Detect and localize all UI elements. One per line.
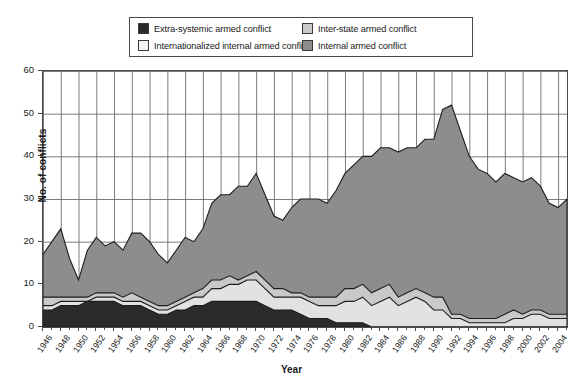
legend-label: Inter-state armed conflict bbox=[318, 24, 417, 34]
y-axis-tick-label: 10 bbox=[8, 277, 34, 288]
x-axis-tick-label: 1998 bbox=[493, 333, 516, 360]
chart-legend: Extra-systemic armed conflict Inter-stat… bbox=[129, 17, 473, 57]
x-axis-tick-label: 1954 bbox=[102, 333, 125, 360]
x-axis-tick-label: 1980 bbox=[333, 333, 356, 360]
x-axis-tick-label: 1948 bbox=[49, 333, 72, 360]
x-axis-tick-label: 1994 bbox=[457, 333, 480, 360]
legend-swatch-inter-state bbox=[302, 23, 313, 34]
stacked-area-series bbox=[43, 71, 567, 327]
x-axis-tick-label: 1962 bbox=[173, 333, 196, 360]
x-axis-tick-label: 1996 bbox=[475, 333, 498, 360]
x-axis-tick-label: 1972 bbox=[262, 333, 285, 360]
x-axis-tick-label: 1992 bbox=[440, 333, 463, 360]
x-axis-tick-label: 1958 bbox=[138, 333, 161, 360]
x-axis-tick-label: 1974 bbox=[280, 333, 303, 360]
y-axis-tick-label: 0 bbox=[8, 320, 34, 331]
x-axis-tick-label: 1976 bbox=[298, 333, 321, 360]
legend-item: Inter-state armed conflict bbox=[302, 20, 466, 37]
chart-figure: Extra-systemic armed conflict Inter-stat… bbox=[0, 0, 583, 384]
x-axis-tick-label: 2004 bbox=[546, 333, 569, 360]
legend-swatch-internal bbox=[302, 40, 313, 51]
x-axis-tick-label: 1964 bbox=[191, 333, 214, 360]
legend-item: Internationalized internal armed conflic… bbox=[138, 37, 302, 54]
x-axis-tick-label: 2002 bbox=[528, 333, 551, 360]
x-axis-tick-label: 1990 bbox=[422, 333, 445, 360]
x-axis-tick-label: 1966 bbox=[209, 333, 232, 360]
x-axis-title: Year bbox=[0, 364, 583, 375]
x-axis-tick-label: 1960 bbox=[155, 333, 178, 360]
x-axis-tick-label: 1950 bbox=[67, 333, 90, 360]
legend-label: Extra-systemic armed conflict bbox=[154, 24, 271, 34]
y-axis-title: No. of conflicts bbox=[37, 106, 48, 226]
x-axis-tick-label: 1952 bbox=[84, 333, 107, 360]
x-axis-tick-label: 1946 bbox=[31, 333, 54, 360]
legend-label: Internationalized internal armed conflic… bbox=[154, 41, 310, 51]
y-axis-tick-label: 50 bbox=[8, 107, 34, 118]
y-axis-tick-label: 20 bbox=[8, 235, 34, 246]
y-axis-tick-label: 40 bbox=[8, 149, 34, 160]
x-axis-tick-label: 1984 bbox=[369, 333, 392, 360]
x-axis-tick-label: 1970 bbox=[244, 333, 267, 360]
x-axis-tick-label: 1956 bbox=[120, 333, 143, 360]
x-axis-tick-label: 1978 bbox=[315, 333, 338, 360]
x-axis-tick-label: 1986 bbox=[386, 333, 409, 360]
plot-area bbox=[42, 70, 568, 328]
legend-label: Internal armed conflict bbox=[318, 41, 406, 51]
x-axis-tick-label: 1988 bbox=[404, 333, 427, 360]
x-axis-tick-label: 1968 bbox=[226, 333, 249, 360]
y-axis-tick-label: 60 bbox=[8, 64, 34, 75]
legend-item: Internal armed conflict bbox=[302, 37, 466, 54]
legend-swatch-extra-systemic bbox=[138, 23, 149, 34]
x-axis-tick-label: 2000 bbox=[511, 333, 534, 360]
y-axis-tick-label: 30 bbox=[8, 192, 34, 203]
x-axis-tick-label: 1982 bbox=[351, 333, 374, 360]
legend-swatch-internationalized-internal bbox=[138, 40, 149, 51]
legend-item: Extra-systemic armed conflict bbox=[138, 20, 302, 37]
